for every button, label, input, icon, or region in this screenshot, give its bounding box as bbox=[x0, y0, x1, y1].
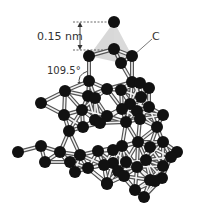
carbon-atom bbox=[94, 117, 106, 129]
carbon-atom bbox=[157, 109, 169, 121]
carbon-atom bbox=[101, 83, 113, 95]
arrow-head-down bbox=[78, 45, 83, 50]
carbon-atom bbox=[83, 50, 95, 62]
carbon-atom bbox=[35, 97, 47, 109]
carbon-atom bbox=[59, 85, 71, 97]
carbon-atom bbox=[134, 113, 146, 125]
carbon-atom bbox=[116, 140, 128, 152]
tetrahedron-shading bbox=[89, 22, 132, 63]
carbon-atom bbox=[144, 141, 156, 153]
carbon-atom bbox=[63, 125, 75, 137]
carbon-atom bbox=[151, 121, 163, 133]
carbon-atom bbox=[101, 178, 113, 190]
carbon-atom bbox=[132, 136, 144, 148]
carbon-atom bbox=[138, 191, 150, 203]
atom-label-c: C bbox=[152, 30, 160, 43]
carbon-atom bbox=[77, 121, 89, 133]
carbon-atom bbox=[76, 104, 88, 116]
carbon-atom bbox=[143, 82, 155, 94]
carbon-atom bbox=[69, 166, 81, 178]
bond-angle-label: 109.5° bbox=[47, 65, 81, 76]
carbon-atom bbox=[108, 16, 120, 28]
carbon-atom bbox=[82, 162, 94, 174]
carbon-atom bbox=[12, 146, 24, 158]
carbon-atom bbox=[135, 91, 147, 103]
carbon-atom bbox=[120, 156, 132, 168]
carbon-atom bbox=[98, 159, 110, 171]
bond-length-label: 0.15 nm bbox=[37, 30, 83, 43]
carbon-atom bbox=[92, 145, 104, 157]
carbon-atom bbox=[116, 103, 128, 115]
carbon-atom bbox=[115, 84, 127, 96]
carbon-atom bbox=[89, 92, 101, 104]
diamond-lattice-diagram: 0.15 nm C 109.5° bbox=[0, 0, 198, 214]
carbon-atom bbox=[35, 140, 47, 152]
carbon-atom bbox=[115, 57, 127, 69]
carbon-atom bbox=[131, 161, 143, 173]
carbon-atom bbox=[74, 149, 86, 161]
carbon-atom bbox=[157, 160, 169, 172]
carbon-atom bbox=[54, 146, 66, 158]
carbon-atom bbox=[83, 75, 95, 87]
carbon-atom bbox=[39, 156, 51, 168]
carbon-atom bbox=[126, 50, 138, 62]
carbon-atom bbox=[143, 101, 155, 113]
carbon-atom bbox=[149, 175, 161, 187]
carbon-atom bbox=[157, 136, 169, 148]
carbon-atom bbox=[165, 151, 177, 163]
arrow-head-up bbox=[78, 22, 83, 27]
carbon-atom bbox=[118, 170, 130, 182]
carbon-atom bbox=[108, 43, 120, 55]
carbon-atom bbox=[120, 116, 132, 128]
carbon-atom bbox=[58, 109, 70, 121]
